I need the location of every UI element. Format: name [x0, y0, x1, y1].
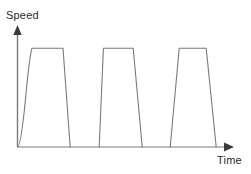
speed-pulse-3: [170, 48, 216, 147]
y-axis-arrowhead: [13, 25, 21, 35]
y-axis-label: Speed: [6, 9, 39, 22]
speed-pulse-1: [18, 48, 71, 147]
chart-canvas: [0, 0, 251, 174]
speed-time-chart: Speed Time: [0, 0, 251, 174]
x-axis-label: Time: [217, 154, 242, 167]
speed-pulse-2: [99, 48, 142, 147]
x-axis-arrowhead: [224, 143, 234, 152]
